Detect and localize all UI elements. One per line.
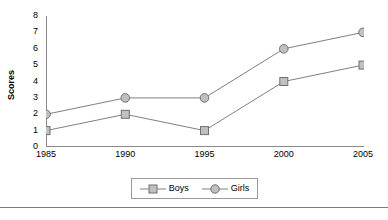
x-tick-label: 2000 (264, 149, 304, 160)
plot-svg (46, 16, 364, 147)
x-axis-tick-labels: 19851990199520002005 (0, 149, 388, 165)
y-tick-label: 7 (18, 27, 38, 36)
legend-item-girls: Girls (202, 183, 250, 195)
y-axis-tick-labels: 012345678 (0, 0, 46, 220)
y-tick-label: 8 (18, 11, 38, 20)
legend-label-boys: Boys (169, 184, 189, 194)
data-point-girls-1990 (121, 94, 130, 103)
bottom-divider (0, 207, 388, 208)
data-point-boys-1995 (201, 127, 209, 135)
data-point-boys-1990 (121, 110, 129, 118)
y-tick-label: 2 (18, 109, 38, 118)
x-tick-label: 2005 (343, 149, 383, 160)
legend-marker-circle-icon (202, 183, 228, 195)
legend-item-boys: Boys (140, 183, 189, 195)
y-tick-label: 6 (18, 44, 38, 53)
y-tick-label: 3 (18, 93, 38, 102)
data-point-boys-1985 (46, 127, 50, 135)
y-tick-label: 4 (18, 77, 38, 86)
legend-label-girls: Girls (231, 184, 250, 194)
x-tick-label: 1990 (105, 149, 145, 160)
data-point-girls-2000 (280, 45, 289, 54)
line-chart: Scores 012345678 19851990199520002005 Bo… (0, 0, 388, 220)
data-point-girls-2005 (359, 28, 364, 37)
legend-marker-square-icon (140, 183, 166, 195)
y-tick-label: 5 (18, 60, 38, 69)
data-point-boys-2005 (359, 61, 364, 69)
chart-legend: Boys Girls (131, 178, 258, 199)
x-tick-label: 1995 (185, 149, 225, 160)
data-point-girls-1985 (46, 110, 50, 119)
data-point-boys-2000 (280, 78, 288, 86)
x-tick-label: 1985 (26, 149, 66, 160)
y-tick-label: 1 (18, 126, 38, 135)
data-point-girls-1995 (200, 94, 209, 103)
plot-area (46, 16, 364, 147)
